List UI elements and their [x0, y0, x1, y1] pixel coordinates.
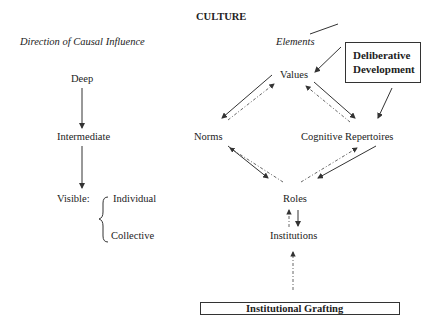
level-intermediate: Intermediate [57, 132, 110, 143]
visible-collective: Collective [111, 231, 154, 242]
node-roles: Roles [283, 194, 307, 205]
visible-individual: Individual [113, 194, 156, 205]
left-heading: Direction of Causal Influence [20, 37, 145, 48]
node-cognitive-repertoires: Cognitive Repertoires [301, 132, 393, 143]
grafting-label: Institutional Grafting [246, 304, 343, 315]
level-deep: Deep [71, 74, 93, 85]
diagram-title: CULTURE [196, 12, 246, 23]
institutional-grafting-box: Institutional Grafting [200, 302, 400, 315]
deliberative-line1: Deliberative [353, 50, 410, 61]
deliberative-line2: Development [353, 64, 415, 75]
deliberative-development-box: Deliberative Development [345, 42, 421, 83]
level-visible: Visible: [57, 194, 90, 205]
node-institutions: Institutions [270, 231, 317, 242]
node-values: Values [280, 70, 308, 81]
right-heading: Elements [276, 37, 315, 48]
node-norms: Norms [194, 132, 223, 143]
